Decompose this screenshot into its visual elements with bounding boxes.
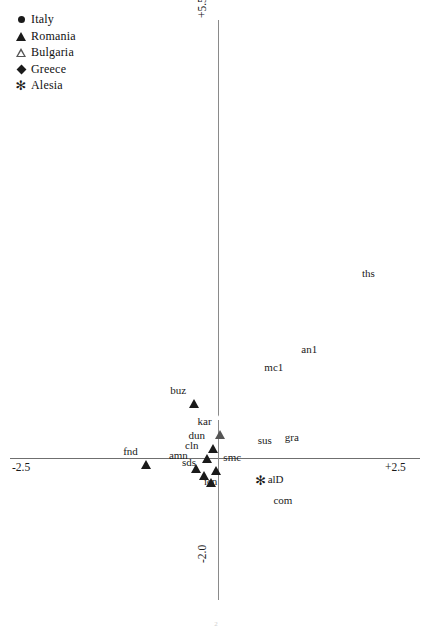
data-point-smc <box>211 449 221 467</box>
data-point-cln <box>202 437 212 455</box>
data-point-label-buz: buz <box>170 384 186 396</box>
legend-marker <box>14 16 28 23</box>
asterisk-marker: ✻ <box>255 473 266 488</box>
y-axis-max-label: +5.5 <box>196 0 208 18</box>
x-axis-min-label: -2.5 <box>12 461 30 473</box>
filled-triangle-marker <box>141 443 151 469</box>
filled-diamond-marker <box>16 64 26 74</box>
data-point-label-smc: smc <box>223 451 241 463</box>
legend-item-bulgaria: Bulgaria <box>14 45 76 60</box>
legend-marker <box>14 66 28 73</box>
legend-label: Greece <box>31 62 66 77</box>
data-point-label-mc1: mc1 <box>264 361 283 373</box>
filled-triangle-marker <box>16 32 26 41</box>
filled-triangle-marker <box>189 382 199 408</box>
vertical-axis <box>218 20 219 600</box>
data-point-alD: ✻ <box>255 471 266 489</box>
legend-label: Italy <box>31 12 54 27</box>
legend-marker <box>14 32 28 41</box>
open-triangle-marker <box>16 48 26 57</box>
legend: ItalyRomaniaBulgariaGreece✻Alesia <box>14 12 76 95</box>
data-point-label-kar: kar <box>198 415 212 427</box>
data-point-label-fnd: fnd <box>123 445 138 457</box>
filled-triangle-marker <box>211 449 221 475</box>
legend-label: Bulgaria <box>31 45 74 60</box>
data-point-buz <box>189 382 199 400</box>
data-point-label-sds: sds <box>182 456 196 468</box>
data-point-label-com: com <box>273 494 292 506</box>
filled-circle-marker <box>18 16 25 23</box>
data-point-label-an1: an1 <box>301 343 317 355</box>
data-point-label-alD: alD <box>268 473 284 485</box>
asterisk-marker: ✻ <box>16 82 27 89</box>
data-point-label-icn: icn <box>204 475 217 487</box>
figure-caption: 2 <box>0 620 432 634</box>
legend-label: Romania <box>31 29 76 44</box>
legend-item-greece: Greece <box>14 62 76 77</box>
y-axis-min-label: -2.0 <box>196 545 208 563</box>
scatter-plot: -2.5 +2.5 +5.5 -2.0 ItalyRomaniaBulgaria… <box>0 0 432 634</box>
open-triangle-marker <box>215 413 225 439</box>
legend-marker <box>14 48 28 57</box>
data-point-label-sus: sus <box>258 434 272 446</box>
data-point-label-ths: ths <box>362 267 375 279</box>
legend-marker: ✻ <box>14 82 28 89</box>
data-point-fnd <box>141 443 151 461</box>
legend-item-alesia: ✻Alesia <box>14 78 76 93</box>
x-axis-max-label: +2.5 <box>385 461 406 473</box>
legend-item-italy: Italy <box>14 12 76 27</box>
legend-item-romania: Romania <box>14 29 76 44</box>
legend-label: Alesia <box>31 78 63 93</box>
data-point-label-gra: gra <box>285 431 299 443</box>
data-point-kar <box>215 413 225 431</box>
